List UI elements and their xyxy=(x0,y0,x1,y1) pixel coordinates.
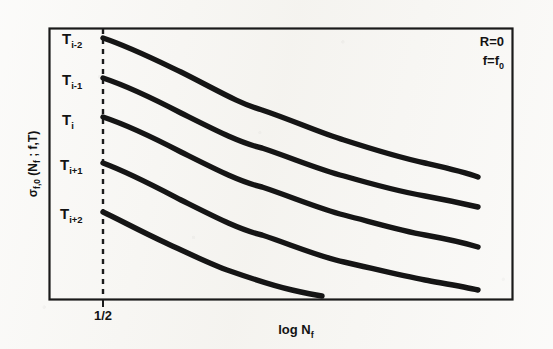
curve-label-base: T xyxy=(60,205,69,222)
curve-label-T-i-plus-1: Ti+1 xyxy=(60,156,83,176)
curve-label-T-i: Ti xyxy=(62,111,74,131)
y-axis-title-sigma: σ xyxy=(26,189,40,197)
curve-T-i-plus-2 xyxy=(103,212,322,296)
fatigue-sn-curve-figure: Ti-2 Ti-1 Ti Ti+1 Ti+2 R=0 f=f0 1/2 log … xyxy=(0,0,553,349)
curve-label-subscript: i-1 xyxy=(71,80,82,91)
curve-label-subscript: i-2 xyxy=(71,39,82,50)
curve-label-T-i-minus-2: Ti-2 xyxy=(62,30,82,50)
curve-label-T-i-minus-1: Ti-1 xyxy=(62,71,82,91)
curve-label-base: T xyxy=(60,156,69,173)
curve-label-T-i-plus-2: Ti+2 xyxy=(60,205,83,225)
curve-label-base: T xyxy=(62,30,71,47)
curve-label-subscript: i+1 xyxy=(69,165,82,176)
curve-label-subscript: i xyxy=(71,120,74,131)
annotation-frequency: f=f0 xyxy=(483,53,504,71)
annotation-stress-ratio-text: R=0 xyxy=(480,34,504,49)
curve-label-subscript: i+2 xyxy=(69,214,82,225)
x-tick-label-half-text: 1/2 xyxy=(94,308,112,323)
y-axis-title: σf,0 (Nf ; f,T) xyxy=(26,131,42,197)
plot-frame xyxy=(50,29,513,300)
y-axis-title-open: (N xyxy=(26,163,40,179)
x-axis-title-subscript: f xyxy=(311,330,314,340)
annotation-stress-ratio: R=0 xyxy=(480,34,504,49)
annotation-frequency-text: f=f xyxy=(483,53,499,68)
annotation-frequency-subscript: 0 xyxy=(499,61,504,71)
y-axis-title-n-subscript: f xyxy=(32,160,42,163)
x-axis-title: log Nf xyxy=(278,322,314,340)
curve-label-base: T xyxy=(62,71,71,88)
curve-T-i-plus-1 xyxy=(103,163,478,290)
x-axis-title-base: log N xyxy=(278,322,311,337)
y-axis-title-sigma-subscript: f,0 xyxy=(32,179,42,189)
curve-label-base: T xyxy=(62,111,71,128)
x-tick-label-half: 1/2 xyxy=(94,308,112,323)
curve-T-i xyxy=(103,117,478,247)
y-axis-title-tail: ; f,T) xyxy=(26,131,40,160)
curve-group xyxy=(103,38,478,296)
